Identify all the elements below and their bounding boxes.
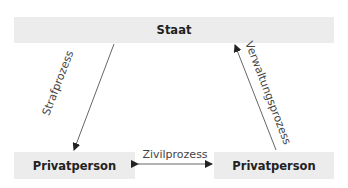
edge-zivilprozess-label: Zivilprozess xyxy=(142,148,207,161)
edge-strafprozess-arrow xyxy=(74,44,114,150)
